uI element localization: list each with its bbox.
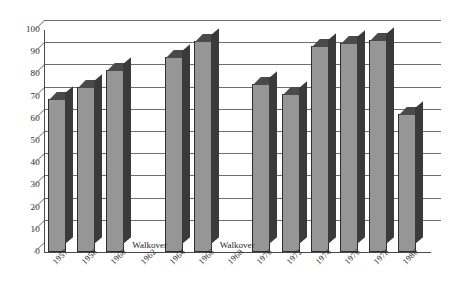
bar-1964 bbox=[165, 57, 183, 252]
bar-1974 bbox=[311, 46, 329, 252]
y-axis-labels: 1009080706050403020100 bbox=[0, 0, 40, 292]
bar-1960 bbox=[106, 70, 124, 252]
bar-1966 bbox=[194, 41, 212, 252]
bar-1958 bbox=[77, 87, 95, 252]
bar-1970 bbox=[252, 84, 270, 252]
bar-1957 bbox=[48, 99, 66, 252]
x-axis-labels: 1957195819601962196419661968197019721974… bbox=[44, 254, 441, 292]
bar-1976 bbox=[340, 43, 358, 252]
bar-1978 bbox=[369, 40, 387, 252]
bar-1972 bbox=[282, 94, 300, 252]
bar-1980 bbox=[398, 114, 416, 252]
bar-chart: 1009080706050403020100 WalkoverWalkover … bbox=[0, 0, 451, 292]
